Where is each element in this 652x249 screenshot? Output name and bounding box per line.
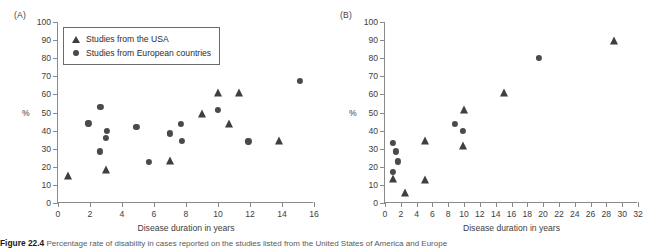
data-point-usa [460,105,468,113]
data-point-usa [389,175,397,183]
panel-b-y-tick-label: 80 [368,53,378,63]
panel-a-y-tick-label: 50 [41,108,51,118]
panel-b-y-tick-label: 40 [368,126,378,136]
data-point-europe [85,120,91,126]
panel-b-x-tick-label: 18 [523,209,533,219]
data-point-usa [225,120,233,128]
panel-b-x-tick-label: 12 [475,209,485,219]
data-point-europe [215,107,221,113]
panel-b-x-tick-label: 22 [554,209,564,219]
panel-b-x-tick [512,202,513,207]
panel-b-x-axis-title: Disease duration in years [463,223,560,233]
data-point-europe [103,135,109,141]
panel-a-x-tick-label: 6 [152,209,157,219]
legend-item-usa: Studies from the USA [70,32,211,46]
panel-a-x-axis-title: Disease duration in years [138,223,235,233]
panel-b-x-tick [575,202,576,207]
panel-b-y-tick-label: 20 [368,162,378,172]
panel-a-y-tick-label: 40 [41,126,51,136]
data-point-usa [500,89,508,97]
data-point-usa [610,37,618,45]
panel-a-x-tick-label: 4 [120,209,125,219]
panel-a-x-tick [58,202,59,207]
panel-a-y-tick [53,185,58,186]
data-point-europe [393,148,399,154]
panel-b-x-tick-label: 8 [446,209,451,219]
panel-b-x-tick-label: 6 [430,209,435,219]
data-point-europe [395,158,401,164]
panel-a-y-tick-label: 10 [41,180,51,190]
panel-a-label: (A) [14,10,26,20]
data-point-usa [459,142,467,150]
panel-a-y-tick-label: 80 [41,53,51,63]
panel-b-x-tick [606,202,607,207]
panel-a-y-tick [53,40,58,41]
panel-a-legend: Studies from the USA Studies from Europe… [63,27,220,65]
panel-b-y-tick-label: 30 [368,144,378,154]
data-point-usa [421,137,429,145]
panel-b-x-tick-label: 30 [617,209,627,219]
panel-a-y-tick [53,76,58,77]
panel-a-x-tick-label: 14 [277,209,287,219]
panel-a-x-tick-label: 16 [309,209,319,219]
data-point-europe [536,55,542,61]
panel-a-y-tick-label: 100 [37,17,51,27]
panel-b-y-tick-label: 90 [368,35,378,45]
data-point-usa [421,176,429,184]
panel-b-y-tick [380,113,385,114]
panel-b-y-tick-label: 100 [364,17,378,27]
data-point-europe [297,78,303,84]
panel-a-x-tick [154,202,155,207]
panel-a-y-tick [53,131,58,132]
panel-a-x-tick-label: 2 [88,209,93,219]
data-point-usa [64,171,72,179]
legend-item-europe: Studies from European countries [70,46,211,60]
panel-a-x-tick-label: 0 [56,209,61,219]
data-point-europe [104,128,110,134]
panel-b-x-tick-label: 10 [459,209,469,219]
panel-a-y-tick [53,167,58,168]
panel-a-x-tick [282,202,283,207]
legend-item-europe-label: Studies from European countries [86,48,211,58]
panel-a-y-tick-label: 70 [41,71,51,81]
panel-a-y-tick [53,58,58,59]
panel-a-y-tick [53,149,58,150]
panel-b-x-tick [480,202,481,207]
legend-item-usa-label: Studies from the USA [86,34,169,44]
figure-caption-text: Percentage rate of disability in cases r… [46,239,447,248]
panel-a-x-tick [122,202,123,207]
panel-a-y-tick [53,113,58,114]
data-point-europe [178,121,184,127]
panel-b-y-tick [380,94,385,95]
data-point-europe [97,148,103,154]
panel-b-x-tick [385,202,386,207]
panel-b-x-tick [622,202,623,207]
panel-b-plot-area: % Disease duration in years 010203040506… [384,22,637,203]
panel-b-y-tick [380,131,385,132]
panel-b-x-tick-label: 20 [538,209,548,219]
panel-a-y-tick-label: 20 [41,162,51,172]
panel-b-x-tick-label: 4 [414,209,419,219]
panel-b-y-tick [380,185,385,186]
data-point-usa [198,110,206,118]
panel-b-y-tick [380,22,385,23]
panel-a-x-tick [250,202,251,207]
data-point-europe [97,104,103,110]
panel-a-y-axis-title: % [22,108,30,118]
panel-b-x-tick-label: 14 [491,209,501,219]
panel-b-x-tick [432,202,433,207]
data-point-europe [146,159,152,165]
panel-a-x-tick-label: 8 [184,209,189,219]
panel-b-x-tick-label: 2 [398,209,403,219]
data-point-usa [166,157,174,165]
panel-b-y-tick-label: 10 [368,180,378,190]
data-point-usa [275,137,283,145]
panel-b-x-tick [638,202,639,207]
panel-a-y-tick [53,22,58,23]
panel-a-x-tick-label: 12 [245,209,255,219]
data-point-europe [451,121,457,127]
panel-b-x-tick [448,202,449,207]
panel-b-y-tick-label: 50 [368,108,378,118]
panel-b-y-tick [380,40,385,41]
panel-b-y-tick [380,58,385,59]
